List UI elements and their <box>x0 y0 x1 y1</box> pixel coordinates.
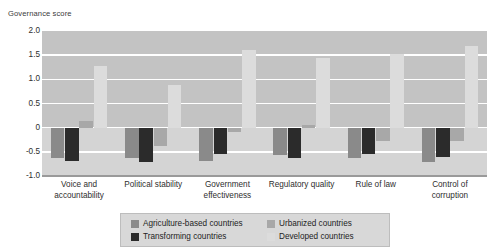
plot-area <box>42 31 487 176</box>
y-axis-title: Governance score <box>8 9 72 18</box>
bar-group <box>190 31 264 176</box>
bar <box>316 58 330 128</box>
bar <box>288 128 302 158</box>
bar <box>154 128 168 146</box>
legend-label: Urbanized countries <box>279 219 352 228</box>
y-tick-label: -0.5 <box>4 147 40 156</box>
category-label: Political stability <box>116 180 190 191</box>
category-label: Government effectiveness <box>190 180 264 201</box>
bar-group <box>265 31 339 176</box>
legend-item: Urbanized countries <box>267 219 352 228</box>
clipped-caption <box>0 0 491 3</box>
bar-group <box>116 31 190 176</box>
bar <box>348 128 362 158</box>
bar <box>199 128 213 161</box>
category-label: Voice and accountability <box>42 180 116 201</box>
bar <box>79 121 93 127</box>
legend-swatch <box>131 220 139 228</box>
bar <box>168 85 182 128</box>
bar <box>242 50 256 127</box>
chart-legend: Agriculture-based countriesTransforming … <box>120 213 390 247</box>
bar <box>376 128 390 142</box>
legend-item: Agriculture-based countries <box>131 219 243 228</box>
bar <box>390 54 404 127</box>
bar <box>362 128 376 155</box>
legend-label: Transforming countries <box>143 232 226 241</box>
bar <box>94 66 108 128</box>
bar <box>273 128 287 155</box>
bar <box>51 128 65 158</box>
y-tick-label: 1.5 <box>4 50 40 59</box>
bar-group <box>42 31 116 176</box>
x-axis-line <box>42 175 487 176</box>
legend-swatch <box>267 220 275 228</box>
category-labels: Voice and accountabilityPolitical stabil… <box>42 180 487 206</box>
bar <box>65 128 79 162</box>
bar <box>228 128 242 132</box>
chart-figure: Governance score 2.01.51.00.50-0.5-1.0 V… <box>0 0 491 252</box>
legend-swatch <box>267 233 275 241</box>
bar <box>450 128 464 142</box>
bar <box>214 128 228 155</box>
bar <box>302 125 316 127</box>
bar <box>465 46 479 128</box>
bar <box>422 128 436 163</box>
bar-group <box>339 31 413 176</box>
category-label: Regulatory quality <box>265 180 339 191</box>
y-tick-label: 2.0 <box>4 26 40 35</box>
bar <box>436 128 450 157</box>
legend-item: Developed countries <box>267 232 354 241</box>
category-label: Rule of law <box>339 180 413 191</box>
legend-swatch <box>131 233 139 241</box>
y-axis-tick-labels: 2.01.51.00.50-0.5-1.0 <box>0 31 40 176</box>
y-tick-label: 0 <box>4 123 40 132</box>
y-tick-label: -1.0 <box>4 171 40 180</box>
category-label: Control of corruption <box>413 180 487 201</box>
bar <box>125 128 139 158</box>
legend-label: Agriculture-based countries <box>143 219 243 228</box>
y-tick-label: 1.0 <box>4 74 40 83</box>
legend-label: Developed countries <box>279 232 354 241</box>
bar <box>139 128 153 163</box>
y-tick-label: 0.5 <box>4 99 40 108</box>
legend-item: Transforming countries <box>131 232 226 241</box>
bar-group <box>413 31 487 176</box>
